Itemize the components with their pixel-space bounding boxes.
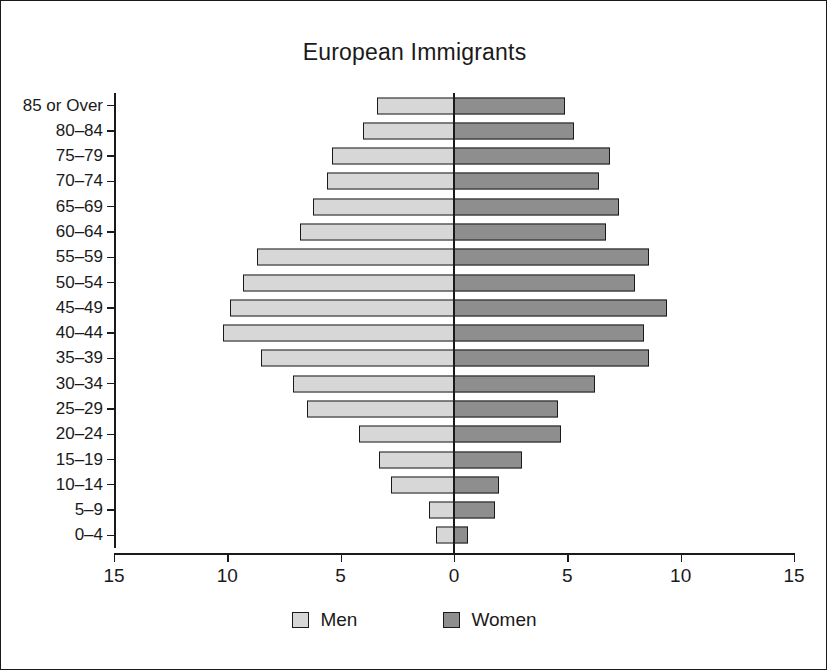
legend-item[interactable]: Men [292, 609, 357, 631]
y-axis-tick-label: 85 or Over [23, 96, 103, 116]
bar-women [454, 375, 595, 392]
y-axis-tick-label: 25–29 [56, 399, 103, 419]
y-axis-tick [107, 282, 114, 283]
y-axis-tick-label: 60–64 [56, 222, 103, 242]
bar-men [377, 97, 454, 114]
x-axis-tick-label: 5 [562, 565, 573, 587]
bar-women [454, 148, 610, 165]
y-axis-tick [107, 408, 114, 409]
bar-women [454, 527, 468, 544]
x-axis-tick-label: 5 [335, 565, 346, 587]
bar-men [363, 122, 454, 139]
bar-women [454, 400, 558, 417]
y-axis-tick [107, 155, 114, 156]
legend-swatch-icon [292, 612, 309, 628]
y-axis-tick [107, 434, 114, 435]
bar-women [454, 198, 619, 215]
bar-women [454, 350, 649, 367]
y-axis-tick [107, 307, 114, 308]
bar-women [454, 299, 667, 316]
y-axis-tick-label: 10–14 [56, 475, 103, 495]
y-axis-tick-label: 65–69 [56, 197, 103, 217]
bar-men [391, 476, 454, 493]
y-axis-tick [107, 358, 114, 359]
y-axis-tick [107, 231, 114, 232]
legend-swatch-icon [443, 612, 460, 628]
y-axis-tick-label: 75–79 [56, 146, 103, 166]
y-axis-tick-label: 30–34 [56, 374, 103, 394]
bar-women [454, 249, 649, 266]
bar-women [454, 325, 644, 342]
y-axis-tick-label: 40–44 [56, 323, 103, 343]
y-axis-tick [107, 105, 114, 106]
y-axis-tick-label: 70–74 [56, 171, 103, 191]
y-axis-tick [107, 484, 114, 485]
y-axis-tick-label: 35–39 [56, 348, 103, 368]
legend-label: Women [471, 609, 536, 631]
bar-women [454, 502, 495, 519]
bar-men [327, 173, 454, 190]
bar-men [379, 451, 454, 468]
bar-women [454, 224, 606, 241]
y-axis-tick-label: 0–4 [75, 525, 103, 545]
y-axis-tick-label: 80–84 [56, 121, 103, 141]
bar-women [454, 274, 635, 291]
chart-figure: European Immigrants 85 or Over80–8475–79… [0, 0, 827, 670]
y-axis-tick [107, 130, 114, 131]
y-axis-tick [107, 509, 114, 510]
bar-men [257, 249, 454, 266]
x-axis-tick-label: 0 [449, 565, 460, 587]
bar-men [313, 198, 454, 215]
x-axis-tick-label: 10 [670, 565, 691, 587]
bar-men [261, 350, 454, 367]
bar-men [429, 502, 454, 519]
y-axis-tick [107, 257, 114, 258]
legend-label: Men [320, 609, 357, 631]
bar-men [436, 527, 454, 544]
y-axis-tick [107, 181, 114, 182]
bar-men [359, 426, 454, 443]
x-axis-tick [794, 553, 795, 562]
bar-women [454, 426, 561, 443]
bar-women [454, 451, 522, 468]
x-axis-tick [567, 553, 568, 562]
x-axis-tick-label: 15 [103, 565, 124, 587]
bar-men [243, 274, 454, 291]
y-axis-tick-label: 45–49 [56, 298, 103, 318]
bar-men [300, 224, 454, 241]
bar-women [454, 122, 574, 139]
bar-men [223, 325, 454, 342]
y-axis-tick [107, 383, 114, 384]
zero-baseline [453, 93, 454, 555]
bar-women [454, 476, 499, 493]
x-axis-tick [681, 553, 682, 562]
x-axis-tick-label: 10 [217, 565, 238, 587]
chart-title: European Immigrants [1, 39, 827, 66]
y-axis-tick-label: 55–59 [56, 247, 103, 267]
x-axis-tick [227, 553, 228, 562]
chart-legend: MenWomen [1, 609, 827, 631]
y-axis-line [114, 93, 116, 548]
y-axis-tick-label: 5–9 [75, 500, 103, 520]
y-axis-tick-label: 15–19 [56, 450, 103, 470]
bar-men [230, 299, 454, 316]
bar-men [307, 400, 454, 417]
bar-women [454, 173, 599, 190]
legend-item[interactable]: Women [443, 609, 536, 631]
x-axis-tick [341, 553, 342, 562]
y-axis-tick [107, 535, 114, 536]
bar-men [332, 148, 454, 165]
bar-women [454, 97, 565, 114]
bar-men [293, 375, 454, 392]
y-axis-tick-label: 50–54 [56, 273, 103, 293]
y-axis-tick [107, 332, 114, 333]
x-axis-tick-label: 15 [783, 565, 804, 587]
y-axis-tick [107, 206, 114, 207]
y-axis-tick [107, 459, 114, 460]
x-axis-tick [114, 553, 115, 562]
y-axis-tick-label: 20–24 [56, 424, 103, 444]
x-axis-tick [454, 553, 455, 562]
